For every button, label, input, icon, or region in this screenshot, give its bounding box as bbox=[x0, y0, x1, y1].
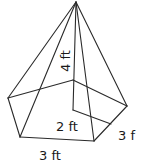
pyramid-diagram: 4 ft 2 ft 3 f 3 ft bbox=[0, 0, 144, 162]
base-edge-back-right bbox=[73, 80, 127, 106]
height-line bbox=[73, 2, 76, 110]
pyramid-figure: 4 ft 2 ft 3 f 3 ft bbox=[0, 0, 144, 162]
base-edge-left bbox=[8, 98, 20, 137]
side-bottom-label: 3 ft bbox=[39, 148, 61, 162]
apothem-label: 2 ft bbox=[56, 119, 78, 134]
height-label: 4 ft bbox=[58, 50, 73, 72]
lateral-edge-front-right bbox=[76, 2, 94, 141]
side-right-label: 3 f bbox=[118, 128, 135, 143]
base-edge-front bbox=[20, 137, 94, 141]
lateral-edge-right bbox=[76, 2, 127, 106]
